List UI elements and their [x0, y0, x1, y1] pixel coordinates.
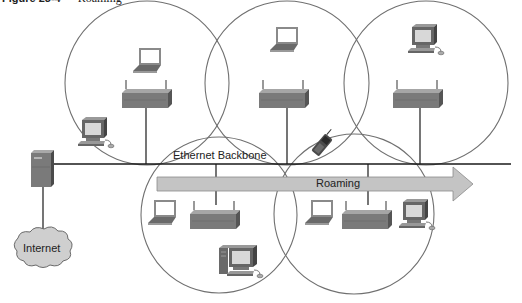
access-point-icon: [259, 80, 309, 108]
desktop-icon: [408, 24, 444, 55]
laptop-icon: [270, 27, 298, 52]
access-point-icon: [122, 80, 172, 108]
internet-label: Internet: [23, 242, 60, 254]
roaming-arrow: [157, 167, 473, 201]
desktop-icon: [78, 117, 114, 148]
laptop-icon: [148, 200, 176, 225]
access-point-icon: [342, 201, 392, 229]
desktop-icon: [399, 199, 435, 230]
access-point-icon: [190, 201, 240, 229]
tower-desktop-icon: [219, 245, 263, 278]
ethernet-backbone-label: Ethernet Backbone: [173, 149, 267, 161]
laptop-icon: [305, 200, 333, 225]
handheld-device-icon: [311, 128, 337, 157]
roaming-diagram: Figure 23-4 Roaming: [0, 0, 522, 303]
access-point-icon: [393, 80, 443, 108]
roaming-label: Roaming: [316, 177, 360, 189]
server-icon: [31, 150, 54, 187]
laptop-icon: [133, 48, 161, 73]
